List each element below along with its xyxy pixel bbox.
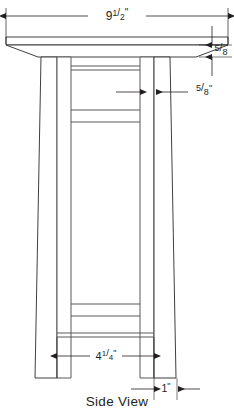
right-leg-inner-post xyxy=(140,57,154,378)
legs-group xyxy=(35,57,176,378)
tabletop-group xyxy=(6,37,228,57)
view-caption-container: Side View xyxy=(0,392,234,410)
dimension-label-inner-span: 41/4" xyxy=(96,347,117,362)
tabletop-beveled-edge xyxy=(6,45,228,57)
left-leg-inner-post xyxy=(57,57,71,378)
dimension-label-leg-thickness: 5/8" xyxy=(196,81,212,97)
dim-unit-top-width: " xyxy=(125,7,129,18)
technical-drawing-root: 91/2" 5/8 5/8" xyxy=(0,0,234,416)
dim-unit-leg-thickness: " xyxy=(209,83,212,93)
dim-unit-foot-width: " xyxy=(167,381,170,391)
side-view-drawing: 91/2" 5/8 5/8" xyxy=(0,0,234,416)
right-leg-outer xyxy=(154,57,176,378)
tabletop-top-face xyxy=(6,37,228,45)
view-caption: Side View xyxy=(86,394,149,409)
rails-group xyxy=(57,66,154,337)
dimension-label-top-width: 91/2" xyxy=(106,7,129,24)
dimension-inner-span: 41/4" xyxy=(57,337,154,378)
dim-unit-inner-span: " xyxy=(113,348,116,358)
dim-denominator-top-thickness: 8 xyxy=(222,47,227,57)
left-leg-outer xyxy=(35,57,57,378)
